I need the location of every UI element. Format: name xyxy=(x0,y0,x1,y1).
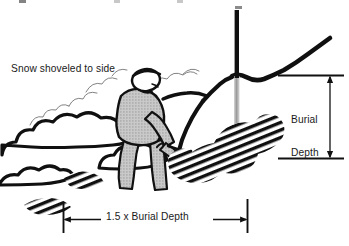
background-snow-puffs xyxy=(30,69,199,125)
label-burial-depth-line1: Burial xyxy=(291,114,319,125)
person-shoveling xyxy=(116,67,177,190)
width-arrow-left xyxy=(64,216,71,222)
label-burial-depth: Burial Depth xyxy=(291,92,319,180)
probe-exposed-section xyxy=(235,10,239,78)
burial-depth-arrow-up xyxy=(327,76,333,83)
label-excavation-width: 1.5 x Burial Depth xyxy=(106,211,189,222)
width-arrow-right xyxy=(240,216,247,222)
avalanche-burial-depth-diagram: Snow shoveled to side Burial Depth 1.5 x… xyxy=(0,0,349,246)
label-burial-depth-line2: Depth xyxy=(291,147,319,158)
label-snow-shoveled-to-side: Snow shoveled to side xyxy=(11,63,115,74)
burial-depth-arrow-down xyxy=(327,151,333,158)
